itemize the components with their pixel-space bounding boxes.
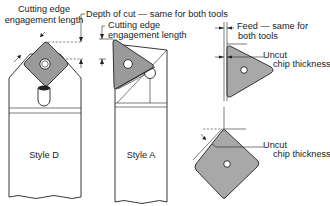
square-uncut-arrowhead: [202, 136, 206, 140]
tool-holder-comparison-diagram: Cutting edge engagement length Depth of …: [0, 0, 330, 206]
style-d-insert-hole: [40, 59, 50, 69]
style-d-clamp-slot: [38, 88, 50, 106]
feed-square-diagram: [193, 107, 264, 199]
style-d-clamp-shadow: [38, 86, 50, 91]
label-cutting-edge-left-2: engagement length: [5, 15, 84, 25]
style-a-tool: [99, 26, 167, 204]
label-depth-of-cut: Depth of cut — same for both tools: [86, 9, 228, 19]
style-d-tool: [9, 14, 83, 199]
triangle-uncut-arrow-left-head: [219, 56, 224, 59]
style-d-depth-arrow-bottom: [79, 59, 83, 64]
style-d-depth-arrow-top: [79, 37, 83, 42]
label-style-a: Style A: [127, 150, 156, 160]
style-a-engagement-arrow: [100, 34, 104, 39]
style-a-insert-hole: [124, 60, 133, 69]
label-feed-2: both tools: [238, 31, 278, 41]
label-feed-1: Feed — same for: [237, 21, 308, 31]
label-cutting-edge-center-2: engagement length: [108, 30, 187, 40]
feed-triangle-hole: [241, 67, 248, 74]
square-insert-hole: [224, 161, 231, 168]
feed-arrow-right-head: [227, 27, 232, 30]
feed-arrow-left-head: [219, 27, 224, 30]
label-cutting-edge-center-1: Cutting edge: [108, 20, 160, 30]
label-style-d: Style D: [29, 150, 59, 160]
label-uncut-top-2: chip thickness: [273, 59, 330, 69]
label-cutting-edge-left-1: Cutting edge: [18, 4, 70, 14]
label-uncut-bottom-2: chip thickness: [273, 149, 330, 159]
style-a-depth-arrow: [100, 59, 104, 64]
